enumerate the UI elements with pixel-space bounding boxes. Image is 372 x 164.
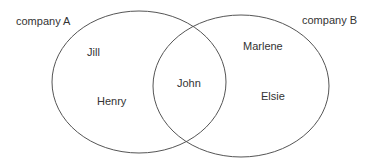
intersection-member: John xyxy=(177,77,201,89)
set-b-label: company B xyxy=(302,14,357,26)
set-b-member: Elsie xyxy=(261,90,285,102)
set-a-member: Jill xyxy=(87,46,100,58)
venn-diagram: company A company B Jill Henry John Marl… xyxy=(0,0,372,164)
set-a-label: company A xyxy=(16,15,71,27)
set-a-member: Henry xyxy=(97,95,127,107)
set-b-member: Marlene xyxy=(243,40,283,52)
